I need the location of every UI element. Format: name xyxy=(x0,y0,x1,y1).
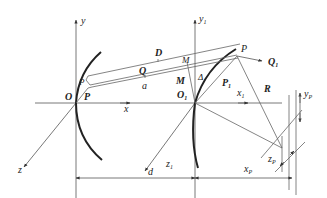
beam-lower-line xyxy=(88,58,238,88)
label-x1: x1 xyxy=(236,87,244,99)
zP-arrow-1 xyxy=(290,151,294,155)
label-z: z xyxy=(17,164,22,175)
label-d: d xyxy=(148,166,154,177)
z-axis xyxy=(24,103,76,167)
label-zP: zP xyxy=(267,153,276,165)
label-P-left: P xyxy=(84,91,91,102)
label-z1: z1 xyxy=(165,158,173,170)
label-P1: P1 xyxy=(222,77,231,89)
mirror-geometry-diagram: y O P P x z D Q a M M Δ y1 O1 x1 z1 P Q1… xyxy=(0,0,327,198)
M-line xyxy=(187,62,195,103)
label-xP: xP xyxy=(243,163,252,175)
diagram-canvas: y O P P x z D Q a M M Δ y1 O1 x1 z1 P Q1… xyxy=(0,0,327,198)
O1-to-focus-line xyxy=(195,103,282,148)
R-line xyxy=(237,56,282,148)
right-mirror-arc xyxy=(193,49,236,168)
label-M-small: M xyxy=(181,55,190,65)
label-y: y xyxy=(80,15,86,26)
label-O1: O1 xyxy=(177,89,187,101)
label-Q: Q xyxy=(139,65,146,76)
label-y1: y1 xyxy=(198,13,206,25)
label-P-small: P xyxy=(78,77,85,87)
z1-axis xyxy=(145,103,195,171)
label-yP: yP xyxy=(303,88,312,100)
label-a: a xyxy=(142,80,147,91)
label-P-top: P xyxy=(240,43,247,54)
label-Q1: Q1 xyxy=(268,56,278,68)
label-D: D xyxy=(154,47,162,58)
label-O: O xyxy=(65,91,72,102)
Q1-arrow xyxy=(237,56,262,61)
label-M: M xyxy=(175,75,186,86)
label-R: R xyxy=(263,83,271,94)
label-delta: Δ xyxy=(197,72,203,82)
label-x: x xyxy=(123,103,129,114)
beam-middle-line xyxy=(86,55,237,85)
left-mirror-arc xyxy=(76,52,102,160)
